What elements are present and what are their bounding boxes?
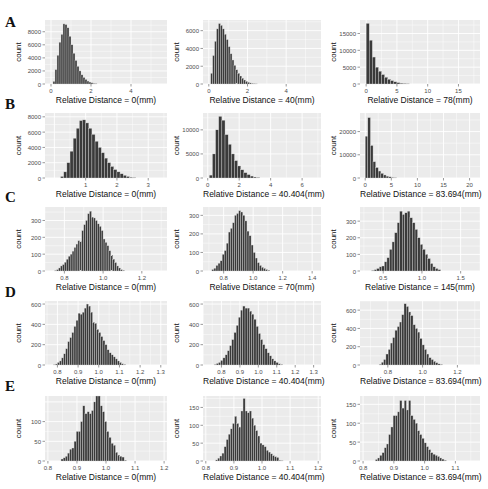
y-tick-label: 0 [196, 269, 200, 275]
y-tick-label: 6000 [186, 28, 200, 34]
histogram-bar [78, 313, 80, 365]
x-tick-label: 4 [269, 182, 273, 188]
histogram-bar [397, 223, 400, 271]
y-tick-label: 10000 [182, 127, 199, 133]
histogram-bar [73, 138, 76, 178]
y-tick-label: 0 [353, 82, 357, 88]
histogram-bar [123, 175, 126, 178]
histogram-bar [266, 450, 268, 461]
histogram-bar [413, 419, 415, 461]
x-tick-label: 0 [49, 88, 53, 94]
y-tick-label: 4000 [28, 55, 42, 61]
histogram-bar [66, 349, 68, 365]
histogram-bar [241, 170, 244, 178]
histogram-bar [393, 338, 395, 365]
histogram-bar [379, 267, 382, 271]
row-label-c: C [5, 189, 16, 206]
histogram-bar [71, 45, 73, 84]
y-tick-label: 300 [346, 219, 357, 225]
histogram-bar [233, 424, 235, 462]
x-axis-title: Relative Distance = 78(mm) [360, 95, 480, 105]
histogram-bar [83, 77, 85, 84]
histogram-bar [105, 422, 107, 461]
histogram-bar [444, 460, 446, 461]
x-axis-title: Relative Distance = 83.694(mm) [360, 376, 480, 386]
y-tick-label: 0 [353, 176, 357, 182]
histogram-bar [382, 75, 385, 84]
histogram-bar [63, 458, 65, 461]
histogram-bar [274, 361, 276, 365]
histogram-bar [433, 361, 435, 365]
x-tick-label: 5 [395, 88, 399, 94]
histogram-bar [395, 416, 397, 461]
histogram-bar [247, 175, 250, 178]
histogram-bar [236, 70, 238, 84]
histogram-bar [61, 459, 63, 461]
histogram-bar [94, 402, 96, 461]
histogram-bar [101, 231, 103, 271]
histogram-bar [99, 226, 101, 271]
histogram-bar [374, 270, 377, 271]
y-axis-title: count [14, 418, 23, 438]
histogram-bar [230, 228, 232, 271]
histogram-bar [243, 215, 245, 271]
histogram-bar [60, 266, 62, 271]
x-axis-title: Relative Distance = 145(mm) [360, 282, 480, 292]
histogram-bar [400, 401, 402, 461]
histogram-bar [68, 256, 70, 271]
x-axis-title: Relative Distance = 0(mm) [45, 95, 167, 105]
histogram-bar [390, 343, 392, 365]
histogram-bar [107, 431, 109, 461]
histogram-bar [386, 354, 388, 365]
histogram-bar [232, 60, 234, 84]
histogram-bar [76, 128, 79, 178]
histogram-bar [209, 175, 212, 178]
y-tick-label: 600 [189, 302, 200, 308]
histogram-bar [220, 25, 222, 84]
y-tick-label: 15000 [339, 31, 356, 37]
histogram-bar [249, 411, 251, 461]
histogram-bar [411, 316, 413, 365]
histogram-bar [216, 363, 218, 365]
y-tick-label: 300 [31, 218, 42, 224]
histogram-bar [423, 249, 426, 271]
histogram-bar [278, 364, 280, 365]
histogram-bar [115, 452, 117, 461]
x-tick-label: 0.9 [390, 465, 399, 471]
histogram-bar [62, 265, 64, 271]
histogram-bar [93, 322, 95, 365]
histogram-bar [412, 223, 415, 271]
histogram-bar [418, 332, 420, 365]
histogram-bar [442, 459, 444, 461]
histogram-bar [422, 438, 424, 461]
y-axis-title: count [172, 135, 181, 155]
y-tick-label: 300 [189, 213, 200, 219]
histogram-bar [222, 29, 224, 84]
histogram-bar [258, 334, 260, 365]
histogram-bar [61, 34, 63, 84]
x-axis-title: Relative Distance = 83.694(mm) [360, 189, 480, 199]
histogram-bar [228, 144, 231, 178]
histogram-bar [238, 73, 240, 84]
histogram-bar [57, 362, 59, 365]
histogram-bar [389, 435, 391, 461]
histogram-bar [407, 211, 410, 271]
histogram-bar [97, 224, 99, 271]
x-tick-label: 0 [364, 182, 368, 188]
histogram-panel-b2: 05000100000246count [163, 113, 321, 190]
x-axis-title: Relative Distance = 0(mm) [45, 376, 167, 386]
histogram-bar [400, 83, 403, 84]
y-axis-title: count [14, 228, 23, 248]
histogram-bar [376, 168, 379, 178]
histogram-bar [218, 24, 220, 84]
histogram-bar [272, 359, 274, 365]
histogram-bar [241, 310, 243, 365]
x-tick-label: 1.0 [95, 369, 104, 375]
histogram-bar [384, 448, 386, 461]
histogram-bar [395, 330, 397, 365]
y-tick-label: 4000 [28, 145, 42, 151]
histogram-bar [402, 315, 404, 365]
histogram-bar [78, 241, 80, 271]
histogram-bar [403, 83, 406, 84]
histogram-bar [378, 458, 380, 461]
